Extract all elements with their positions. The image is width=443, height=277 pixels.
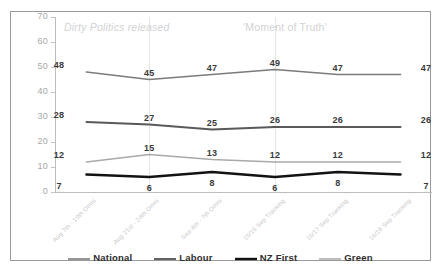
- legend-item-labour[interactable]: Labour: [154, 248, 212, 266]
- point-value-label: 8: [209, 178, 214, 188]
- y-axis-tick-label: 10: [24, 161, 48, 171]
- legend-label: National: [93, 252, 132, 263]
- point-value-label: 26: [270, 115, 280, 125]
- x-axis-line: [55, 192, 432, 193]
- point-value-label: 8: [335, 178, 340, 188]
- legend-swatch-icon: [319, 248, 341, 266]
- point-value-label: 28: [54, 110, 64, 120]
- y-axis-tick-label: 0: [24, 186, 48, 196]
- point-value-label: 49: [270, 58, 280, 68]
- point-value-label: 13: [207, 148, 217, 158]
- point-value-label: 7: [423, 181, 428, 191]
- series-line-labour: [86, 122, 400, 130]
- legend-swatch-icon: [154, 248, 176, 266]
- point-value-label: 6: [272, 183, 277, 193]
- y-axis-tick-label: 30: [24, 111, 48, 121]
- legend-item-nz-first[interactable]: NZ First: [235, 248, 298, 266]
- legend-label: Labour: [179, 252, 212, 263]
- legend-item-green[interactable]: Green: [319, 248, 372, 266]
- legend-swatch-icon: [235, 248, 257, 266]
- series-line-national: [86, 70, 400, 80]
- point-value-label: 47: [421, 63, 431, 73]
- legend-swatch-icon: [68, 248, 90, 266]
- point-value-label: 12: [333, 150, 343, 160]
- point-value-label: 27: [144, 113, 154, 123]
- point-value-label: 12: [270, 150, 280, 160]
- point-value-label: 45: [144, 68, 154, 78]
- chart-legend: NationalLabourNZ FirstGreen: [10, 247, 431, 267]
- point-value-label: 12: [421, 150, 431, 160]
- series-line-green: [86, 155, 400, 163]
- legend-label: Green: [344, 252, 372, 263]
- y-axis-tick-label: 50: [24, 61, 48, 71]
- point-value-label: 26: [333, 115, 343, 125]
- y-axis-tick-label: 40: [24, 86, 48, 96]
- point-value-label: 25: [207, 118, 217, 128]
- poll-tracking-line-chart: 010203040506070 Dirty Politics released'…: [0, 0, 443, 277]
- legend-label: NZ First: [260, 252, 298, 263]
- point-value-label: 26: [421, 115, 431, 125]
- y-axis-tick-label: 60: [24, 36, 48, 46]
- series-lines: [55, 17, 432, 192]
- legend-item-national[interactable]: National: [68, 248, 132, 266]
- y-axis-tick-label: 20: [24, 136, 48, 146]
- series-line-nz-first: [86, 172, 400, 177]
- point-value-label: 15: [144, 143, 154, 153]
- point-value-label: 7: [56, 181, 61, 191]
- point-value-label: 48: [54, 60, 64, 70]
- point-value-label: 47: [333, 63, 343, 73]
- point-value-label: 6: [147, 183, 152, 193]
- y-axis-tick-label: 70: [24, 11, 48, 21]
- point-value-label: 47: [207, 63, 217, 73]
- point-value-label: 12: [54, 150, 64, 160]
